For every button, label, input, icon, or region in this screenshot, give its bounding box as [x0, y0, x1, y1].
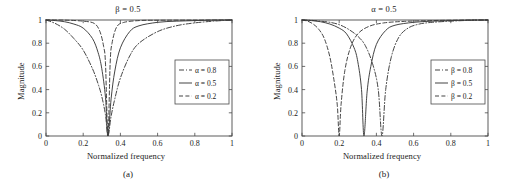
panel-b-caption: (b)	[256, 169, 512, 179]
legend-label-3: β = 0.2	[451, 92, 472, 101]
y-tick-label: 0.4	[288, 86, 298, 95]
x-tick-label: 0	[300, 139, 304, 148]
y-tick-label: 0.2	[288, 109, 298, 118]
y-tick-label: 0	[294, 132, 298, 141]
x-tick-label: 0.8	[190, 139, 200, 148]
y-tick-label: 0.2	[32, 109, 42, 118]
y-tick-label: 0.8	[32, 39, 42, 48]
x-tick-label: 0.6	[409, 139, 419, 148]
panel-a-ylabel: Magnitude	[16, 62, 26, 100]
legend-label-2: α = 0.5	[195, 79, 217, 88]
panel-b: α = 0.5 00.20.40.60.8100.20.40.60.81β = …	[256, 0, 512, 181]
panel-a-caption: (a)	[0, 169, 256, 179]
panel-a: β = 0.5 00.20.40.60.8100.20.40.60.81α = …	[0, 0, 256, 181]
x-tick-label: 0.2	[78, 139, 88, 148]
y-tick-label: 0.4	[32, 86, 42, 95]
panel-b-ylabel: Magnitude	[272, 62, 282, 100]
legend-label-2: β = 0.5	[451, 79, 472, 88]
legend-label-1: β = 0.8	[451, 66, 472, 75]
x-tick-label: 0.4	[115, 139, 125, 148]
y-tick-label: 0.8	[288, 39, 298, 48]
y-tick-label: 1	[38, 16, 42, 25]
y-tick-label: 0.6	[32, 62, 42, 71]
x-tick-label: 0.2	[334, 139, 344, 148]
x-tick-label: 0	[44, 139, 48, 148]
figure-container: β = 0.5 00.20.40.60.8100.20.40.60.81α = …	[0, 0, 512, 181]
x-tick-label: 0.4	[371, 139, 381, 148]
y-tick-label: 1	[294, 16, 298, 25]
legend-label-1: α = 0.8	[195, 66, 217, 75]
x-tick-label: 0.6	[153, 139, 163, 148]
x-tick-label: 1	[230, 139, 234, 148]
legend-label-3: α = 0.2	[195, 92, 217, 101]
x-tick-label: 1	[486, 139, 490, 148]
y-tick-label: 0.6	[288, 62, 298, 71]
panel-a-xlabel: Normalized frequency	[26, 151, 226, 161]
x-tick-label: 0.8	[446, 139, 456, 148]
y-tick-label: 0	[38, 132, 42, 141]
panel-b-xlabel: Normalized frequency	[282, 151, 482, 161]
